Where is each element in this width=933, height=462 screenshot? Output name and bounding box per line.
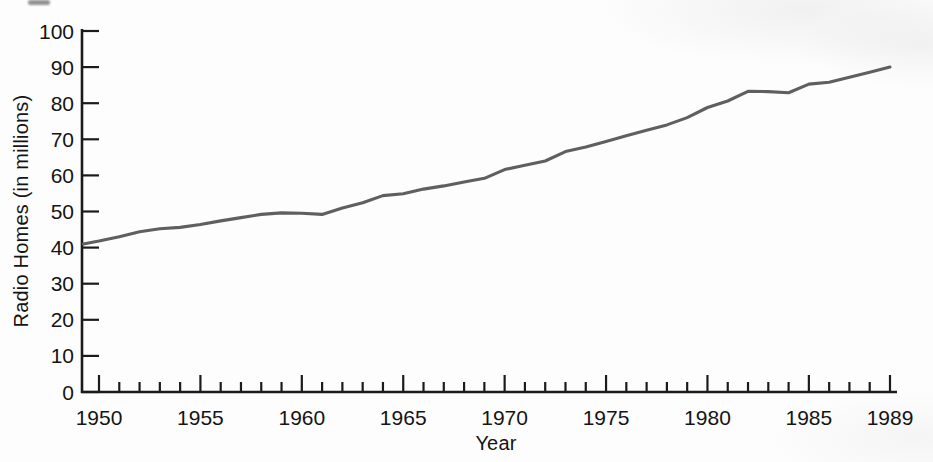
y-tick-label: 30 bbox=[51, 272, 74, 295]
x-tick-label: 1965 bbox=[380, 406, 427, 429]
x-tick-label: 1980 bbox=[684, 406, 731, 429]
x-tick-label: 1955 bbox=[177, 406, 224, 429]
y-tick-label: 20 bbox=[51, 308, 74, 331]
y-tick-label: 40 bbox=[51, 236, 74, 259]
data-line-radio-homes bbox=[83, 67, 890, 244]
x-tick-label: 1960 bbox=[278, 406, 325, 429]
y-tick-label: 0 bbox=[62, 381, 74, 404]
chart-plot-area: 0102030405060708090100195019551960196519… bbox=[0, 0, 933, 462]
x-tick-label: 1950 bbox=[76, 406, 123, 429]
y-tick-label: 70 bbox=[51, 128, 74, 151]
radio-homes-line-chart: 0102030405060708090100195019551960196519… bbox=[0, 0, 933, 462]
y-tick-label: 80 bbox=[51, 92, 74, 115]
x-axis-title: Year bbox=[475, 432, 516, 455]
x-tick-label: 1975 bbox=[583, 406, 630, 429]
y-tick-label: 100 bbox=[39, 20, 74, 43]
y-axis-title: Radio Homes (in millions) bbox=[10, 95, 33, 328]
y-tick-label: 60 bbox=[51, 164, 74, 187]
x-tick-label: 1985 bbox=[786, 406, 833, 429]
y-tick-label: 10 bbox=[51, 344, 74, 367]
axes-frame bbox=[82, 29, 897, 392]
x-tick-label: 1970 bbox=[481, 406, 528, 429]
x-tick-label: 1989 bbox=[867, 406, 914, 429]
y-tick-label: 50 bbox=[51, 200, 74, 223]
y-tick-label: 90 bbox=[51, 56, 74, 79]
